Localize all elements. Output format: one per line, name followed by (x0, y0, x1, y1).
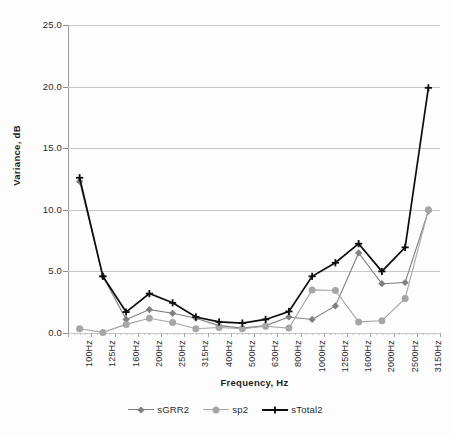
data-point-sp2 (378, 317, 385, 324)
x-axis-tick-mark (324, 333, 325, 337)
x-axis-tick-mark (115, 333, 116, 337)
x-axis-tick-label: 500Hz (247, 340, 257, 367)
x-axis-minor-tick (149, 333, 150, 335)
x-axis-tick-label: 800Hz (293, 340, 303, 367)
x-axis-minor-tick (248, 333, 249, 335)
x-axis-minor-tick (405, 333, 406, 335)
data-point-sTotal2 (239, 320, 246, 327)
x-axis-minor-tick (213, 333, 214, 335)
data-point-sp2 (192, 325, 199, 332)
x-axis-minor-tick (318, 333, 319, 335)
data-point-sGRR2 (332, 302, 339, 309)
x-axis-tick-mark (347, 333, 348, 337)
x-axis-minor-tick (225, 333, 226, 335)
data-point-sTotal2 (76, 174, 83, 181)
legend-entry-sTotal2[interactable]: sTotal2 (262, 404, 323, 415)
x-axis-tick-mark (417, 333, 418, 337)
x-axis-tick-mark (277, 333, 278, 337)
x-axis-minor-tick (132, 333, 133, 335)
legend-label: sGRR2 (157, 404, 189, 415)
x-axis-minor-tick (97, 333, 98, 335)
legend-entry-sp2[interactable]: sp2 (203, 404, 248, 415)
data-point-sGRR2 (146, 306, 153, 313)
x-axis-tick-label: 250Hz (177, 340, 187, 367)
x-axis-tick-label: 200Hz (154, 340, 164, 367)
x-axis-tick-mark (184, 333, 185, 337)
x-axis-minor-tick (237, 333, 238, 335)
x-axis-minor-tick (74, 333, 75, 335)
x-axis-tick-mark (208, 333, 209, 337)
x-axis-minor-tick (196, 333, 197, 335)
x-axis-tick-label: 3150Hz (433, 340, 443, 372)
x-axis-minor-tick (120, 333, 121, 335)
x-axis-minor-tick (341, 333, 342, 335)
x-axis-tick-label: 2500Hz (410, 340, 420, 372)
x-axis-minor-tick (411, 333, 412, 335)
variance-vs-frequency-chart: 0.05.010.015.020.025.0 Variance, dB 100H… (0, 0, 451, 436)
x-axis-tick-mark (161, 333, 162, 337)
x-axis-minor-tick (353, 333, 354, 335)
x-axis-minor-tick (330, 333, 331, 335)
series-line-sTotal2 (80, 88, 429, 323)
x-axis-minor-tick (126, 333, 127, 335)
y-axis-title: Variance, dB (11, 96, 22, 216)
x-axis-tick-label: 630Hz (270, 340, 280, 367)
x-axis-minor-tick (295, 333, 296, 335)
x-axis-minor-tick (173, 333, 174, 335)
x-axis-minor-tick (266, 333, 267, 335)
y-axis-tick-label: 15.0 (22, 142, 62, 153)
x-axis-minor-tick (242, 333, 243, 335)
data-point-sp2 (402, 295, 409, 302)
x-axis-tick-mark (440, 333, 441, 337)
x-axis-tick-label: 1600Hz (363, 340, 373, 372)
legend-marker-diamond-icon (128, 405, 154, 415)
legend-entry-sGRR2[interactable]: sGRR2 (128, 404, 189, 415)
y-axis-tick-label: 10.0 (22, 204, 62, 215)
x-axis-minor-tick (283, 333, 284, 335)
x-axis-minor-tick (167, 333, 168, 335)
x-axis-tick-mark (370, 333, 371, 337)
data-point-sp2 (146, 315, 153, 322)
x-axis-minor-tick (312, 333, 313, 335)
plot-area (68, 25, 440, 333)
data-point-sp2 (309, 286, 316, 293)
x-axis-minor-tick (155, 333, 156, 335)
x-axis-tick-label: 1250Hz (340, 340, 350, 372)
data-point-sp2 (355, 318, 362, 325)
x-axis-tick-label: 315Hz (200, 340, 210, 367)
data-point-sp2 (76, 325, 83, 332)
x-axis-tick-label: 125Hz (107, 340, 117, 367)
x-axis-minor-tick (382, 333, 383, 335)
x-axis-minor-tick (428, 333, 429, 335)
y-axis-tick-label: 25.0 (22, 19, 62, 30)
x-axis-tick-mark (254, 333, 255, 337)
data-point-sGRR2 (402, 279, 409, 286)
x-axis-minor-tick (178, 333, 179, 335)
x-axis-minor-tick (376, 333, 377, 335)
data-point-sp2 (285, 325, 292, 332)
data-point-sGRR2 (309, 316, 316, 323)
data-point-sp2 (169, 319, 176, 326)
chart-legend: sGRR2sp2sTotal2 (0, 404, 451, 415)
x-axis-tick-mark (231, 333, 232, 337)
data-point-sp2 (425, 206, 432, 213)
x-axis-tick-label: 100Hz (84, 340, 94, 367)
y-axis-tick-label: 0.0 (22, 327, 62, 338)
x-axis-tick-mark (138, 333, 139, 337)
data-point-sTotal2 (425, 84, 432, 91)
x-axis-tick-label: 160Hz (131, 340, 141, 367)
x-axis-minor-tick (289, 333, 290, 335)
legend-label: sTotal2 (291, 404, 323, 415)
series-line-sGRR2 (80, 181, 429, 328)
data-point-sGRR2 (169, 310, 176, 317)
x-axis-tick-mark (394, 333, 395, 337)
x-axis-tick-label: 1000Hz (317, 340, 327, 372)
data-point-sp2 (332, 287, 339, 294)
x-axis-minor-tick (359, 333, 360, 335)
x-axis-minor-tick (434, 333, 435, 335)
data-point-sTotal2 (262, 316, 269, 323)
x-axis-tick-label: 2000Hz (386, 340, 396, 372)
y-axis-tick-labels: 0.05.010.015.020.025.0 (18, 0, 62, 436)
x-axis-minor-tick (190, 333, 191, 335)
x-axis-minor-tick (85, 333, 86, 335)
